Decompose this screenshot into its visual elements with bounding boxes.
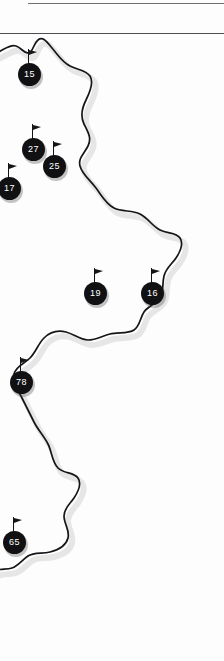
map-page: 1527251719167865: [0, 0, 224, 661]
map-artwork: [0, 0, 224, 661]
flag-marker-16[interactable]: 16: [141, 268, 167, 308]
flag-icon: [9, 164, 17, 169]
flag-icon: [54, 142, 62, 147]
marker-label: 16: [141, 282, 164, 305]
flag-icon: [14, 518, 22, 523]
flag-marker-17[interactable]: 17: [0, 163, 24, 203]
marker-label: 19: [84, 282, 107, 305]
flag-marker-19[interactable]: 19: [84, 268, 110, 308]
flag-marker-78[interactable]: 78: [10, 357, 36, 397]
flag-icon: [29, 50, 37, 55]
flag-icon: [21, 358, 29, 363]
flag-marker-15[interactable]: 15: [18, 49, 44, 89]
flag-marker-25[interactable]: 25: [43, 141, 69, 181]
marker-label: 25: [43, 155, 66, 178]
flag-icon: [152, 269, 160, 274]
marker-label: 17: [0, 177, 21, 200]
marker-label: 65: [3, 531, 26, 554]
marker-label: 27: [22, 138, 45, 161]
marker-label: 15: [18, 63, 41, 86]
marker-label: 78: [10, 371, 33, 394]
flag-icon: [95, 269, 103, 274]
flag-marker-65[interactable]: 65: [3, 517, 29, 557]
flag-icon: [33, 125, 41, 130]
